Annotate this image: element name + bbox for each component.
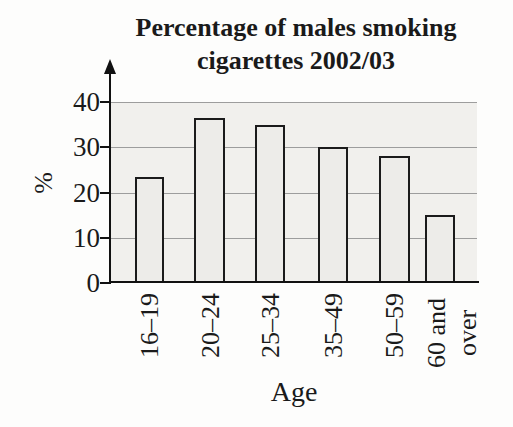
y-tick-label-10: 10 — [52, 224, 100, 252]
x-category-label-text: 60 and over — [421, 293, 483, 373]
x-axis-line — [109, 281, 479, 283]
bar-60 and over — [425, 215, 455, 283]
x-category-label: 16–19 — [116, 293, 182, 373]
x-axis-title: Age — [111, 376, 477, 408]
gridline-40 — [111, 102, 477, 103]
bar-35–49 — [318, 147, 348, 283]
bar-20–24 — [194, 118, 225, 283]
bar-chart: Percentage of males smoking cigarettes 2… — [0, 0, 513, 427]
y-tick-0 — [100, 282, 110, 284]
x-category-label: 60 and over — [419, 293, 485, 373]
y-axis-title: % — [29, 163, 59, 203]
y-tick-label-0: 0 — [52, 269, 100, 297]
x-category-label: 20–24 — [177, 293, 243, 373]
gridline-30 — [111, 147, 477, 148]
x-category-label-text: 25–34 — [255, 293, 286, 358]
y-tick-label-40: 40 — [52, 88, 100, 116]
x-category-label-text: 35–49 — [318, 293, 349, 358]
chart-title-line2: cigarettes 2002/03 — [79, 44, 513, 77]
gridline-20 — [111, 193, 477, 194]
chart-title: Percentage of males smoking cigarettes 2… — [79, 11, 513, 77]
chart-title-line1: Percentage of males smoking — [79, 11, 513, 44]
y-tick-40 — [100, 101, 110, 103]
x-category-label-text: 16–19 — [134, 293, 165, 358]
x-category-label-text: 20–24 — [195, 293, 226, 358]
bar-25–34 — [255, 125, 285, 283]
y-tick-label-20: 20 — [52, 179, 100, 207]
x-category-label: 35–49 — [300, 293, 366, 373]
y-axis-arrow-icon — [104, 59, 116, 74]
x-category-label-text: 50–59 — [379, 293, 410, 358]
y-tick-10 — [100, 237, 110, 239]
y-tick-label-30: 30 — [52, 133, 100, 161]
bar-50–59 — [379, 156, 410, 283]
y-tick-20 — [100, 192, 110, 194]
x-category-label: 50–59 — [361, 293, 427, 373]
gridline-10 — [111, 238, 477, 239]
x-category-label: 25–34 — [237, 293, 303, 373]
bar-16–19 — [135, 177, 164, 283]
y-tick-30 — [100, 146, 110, 148]
